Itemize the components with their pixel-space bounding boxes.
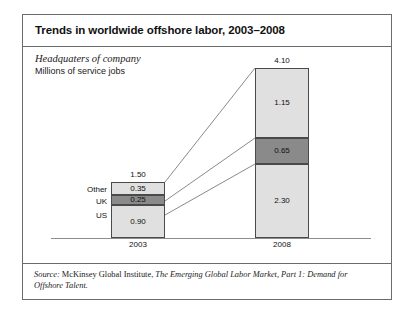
- bar-segment-2008-us: 2.30: [255, 164, 309, 238]
- connector-lines: [23, 15, 391, 263]
- baseline-axis: [51, 238, 371, 239]
- row-label-us: US: [69, 211, 107, 220]
- bar-segment-2008-other: 1.15: [255, 68, 309, 138]
- axis-tick-2008: 2008: [255, 240, 309, 249]
- bar-segment-2003-uk: 0.25: [111, 195, 165, 205]
- source-lead: Source:: [34, 270, 60, 279]
- bar-segment-2008-uk: 0.65: [255, 138, 309, 164]
- row-label-uk: UK: [69, 197, 107, 206]
- source-organization: McKinsey Global Institute,: [60, 270, 156, 279]
- segment-value: 0.65: [274, 147, 290, 155]
- bar-segment-2003-other: 0.35: [111, 182, 165, 195]
- bar-2008: 4.10 1.15 0.65 2.30 2008: [255, 68, 309, 238]
- bar-2003: 1.50 0.35 0.25 0.90 2003: [111, 182, 165, 238]
- source-note: Source: McKinsey Global Institute, The E…: [34, 269, 372, 292]
- bar-total-2003: 1.50: [111, 170, 165, 179]
- segment-value: 1.15: [274, 99, 290, 107]
- segment-value: 0.25: [130, 196, 146, 204]
- figure-panel: Trends in worldwide offshore labor, 2003…: [22, 14, 392, 300]
- row-label-other: Other: [69, 185, 107, 194]
- bar-total-2008: 4.10: [255, 56, 309, 65]
- segment-value: 0.90: [130, 218, 146, 226]
- chart-plot-area: 1.50 0.35 0.25 0.90 2003 Other UK US 4.1…: [23, 15, 391, 263]
- segment-value: 0.35: [130, 185, 146, 193]
- segment-value: 2.30: [274, 197, 290, 205]
- source-divider: [23, 263, 391, 264]
- bar-segment-2003-us: 0.90: [111, 205, 165, 238]
- axis-tick-2003: 2003: [111, 240, 165, 249]
